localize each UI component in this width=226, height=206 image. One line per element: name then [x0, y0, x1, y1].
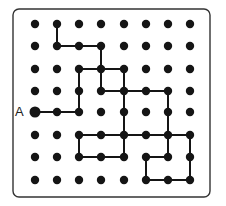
grid-dot: [53, 65, 61, 73]
grid-dot: [31, 131, 39, 139]
grid-dot: [31, 42, 39, 50]
grid-dot: [75, 87, 83, 95]
grid-dot: [31, 65, 39, 73]
grid-dot: [75, 108, 83, 116]
grid-dot: [164, 87, 172, 95]
grid-dot: [31, 153, 39, 161]
grid-dot: [53, 153, 61, 161]
grid-dot: [75, 65, 83, 73]
grid-dot: [164, 131, 172, 139]
grid-dot: [164, 108, 172, 116]
grid-dot: [97, 108, 105, 116]
start-dot-a: [30, 107, 41, 118]
grid-dot: [120, 153, 128, 161]
grid-dot: [142, 65, 150, 73]
grid-dot: [142, 176, 150, 184]
grid-dot: [97, 176, 105, 184]
grid-dot: [53, 131, 61, 139]
dot-grid-puzzle: [0, 0, 226, 206]
grid-dot: [164, 176, 172, 184]
grid-dot: [120, 42, 128, 50]
grid-dot: [186, 131, 194, 139]
grid-dot: [97, 65, 105, 73]
grid-dot: [186, 65, 194, 73]
grid-dot: [97, 42, 105, 50]
grid-dot: [97, 131, 105, 139]
grid-dot: [142, 131, 150, 139]
grid-dot: [31, 176, 39, 184]
grid-dot: [97, 153, 105, 161]
grid-dot: [186, 42, 194, 50]
puzzle-frame: [13, 9, 210, 197]
grid-dots: [30, 20, 195, 184]
grid-dot: [75, 20, 83, 28]
grid-dot: [164, 153, 172, 161]
grid-dot: [31, 20, 39, 28]
grid-dot: [75, 42, 83, 50]
grid-dot: [53, 108, 61, 116]
grid-dot: [120, 131, 128, 139]
grid-dot: [53, 20, 61, 28]
grid-dot: [75, 176, 83, 184]
grid-dot: [31, 87, 39, 95]
grid-dot: [120, 65, 128, 73]
grid-dot: [142, 87, 150, 95]
grid-dot: [53, 42, 61, 50]
grid-dot: [97, 20, 105, 28]
grid-dot: [53, 176, 61, 184]
grid-dot: [120, 87, 128, 95]
grid-dot: [97, 87, 105, 95]
grid-dot: [186, 108, 194, 116]
grid-dot: [120, 20, 128, 28]
grid-dot: [164, 65, 172, 73]
grid-dot: [142, 20, 150, 28]
grid-dot: [186, 153, 194, 161]
grid-dot: [75, 131, 83, 139]
grid-dot: [186, 176, 194, 184]
grid-dot: [186, 20, 194, 28]
grid-dot: [120, 176, 128, 184]
start-label: A: [15, 105, 24, 118]
grid-dot: [164, 20, 172, 28]
grid-dot: [53, 87, 61, 95]
grid-dot: [120, 108, 128, 116]
grid-dot: [75, 153, 83, 161]
grid-dot: [142, 108, 150, 116]
grid-dot: [164, 42, 172, 50]
grid-dot: [142, 42, 150, 50]
grid-dot: [186, 87, 194, 95]
grid-dot: [142, 153, 150, 161]
